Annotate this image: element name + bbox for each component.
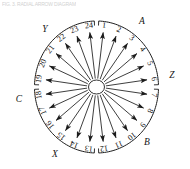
zone-letter-z: Z	[169, 70, 175, 80]
zone-letter-x: X	[51, 149, 59, 159]
spoke-arrow-4	[104, 54, 137, 82]
radial-arrow-diagram: 123456789101112131415161718192021222324 …	[0, 0, 190, 169]
spoke-arrow-12	[98, 95, 103, 141]
spoke-number-24: 24	[84, 20, 93, 30]
spoke-arrow-23	[77, 36, 93, 79]
spoke-number-7: 7	[149, 92, 158, 97]
zone-letter-c: C	[16, 94, 23, 104]
zone-letter-a: A	[138, 16, 145, 26]
spoke-number-20: 20	[37, 58, 48, 69]
spoke-arrow-9	[104, 92, 137, 120]
spoke-number-18: 18	[34, 90, 44, 99]
zone-letter-y: Y	[42, 24, 49, 34]
spoke-arrow-1	[98, 32, 103, 78]
spoke-number-10: 10	[126, 130, 138, 142]
spoke-number-17: 17	[37, 105, 48, 116]
spoke-number-3: 3	[128, 33, 137, 43]
spoke-arrow-11	[100, 95, 116, 138]
spoke-number-6: 6	[149, 76, 158, 81]
outer-arc-segment-A	[99, 21, 159, 85]
spoke-number-14: 14	[69, 139, 80, 150]
spoke-arrow-14	[77, 95, 93, 138]
spoke-number-23: 23	[69, 24, 80, 35]
spoke-number-2: 2	[115, 25, 122, 35]
spoke-number-1: 1	[101, 21, 106, 30]
spoke-arrow-21	[56, 54, 89, 82]
spoke-arrow-13	[90, 95, 95, 141]
spoke-number-21: 21	[44, 43, 56, 55]
figure-root: FIG. 3. RADIAL ARROW DIAGRAM 12345678910…	[0, 0, 190, 169]
spoke-number-4: 4	[138, 45, 148, 54]
spoke-number-12: 12	[99, 144, 108, 154]
spoke-arrow-2	[100, 36, 116, 79]
spoke-arrow-24	[90, 32, 95, 78]
zone-letter-b: B	[144, 137, 150, 147]
hub-layer	[89, 80, 105, 94]
spoke-number-9: 9	[138, 120, 148, 129]
spoke-number-11: 11	[113, 139, 124, 150]
center-hub	[89, 80, 105, 94]
spoke-number-19: 19	[34, 74, 44, 83]
spoke-number-5: 5	[145, 60, 155, 67]
spoke-number-16: 16	[44, 119, 56, 131]
spoke-arrow-16	[56, 92, 89, 120]
spoke-number-22: 22	[55, 32, 67, 44]
spoke-number-8: 8	[145, 107, 155, 114]
spoke-number-15: 15	[55, 130, 67, 142]
spoke-number-13: 13	[84, 144, 93, 154]
